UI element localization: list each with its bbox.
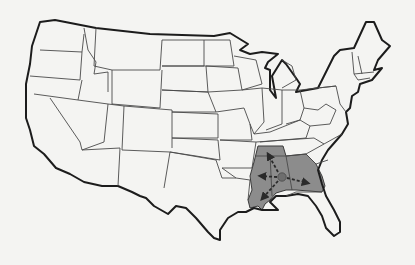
us-map xyxy=(0,0,415,265)
center-marker-dot xyxy=(278,173,286,181)
state-borders xyxy=(30,28,374,200)
national-outline xyxy=(26,20,390,240)
map-page xyxy=(0,0,415,265)
